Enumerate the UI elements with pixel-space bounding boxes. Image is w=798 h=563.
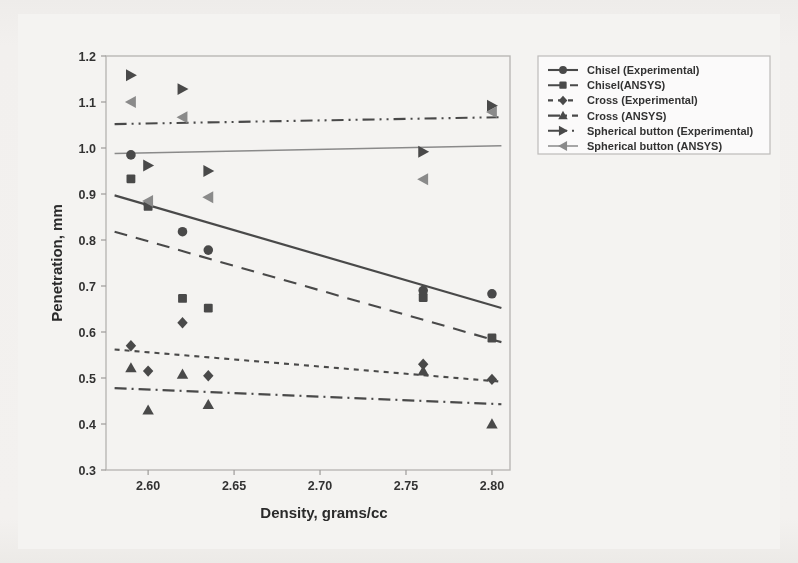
x-axis-tick-labels: 2.602.652.702.752.80 bbox=[136, 479, 504, 493]
legend-label-1: Chisel(ANSYS) bbox=[587, 79, 666, 91]
x-tick-label: 2.80 bbox=[480, 479, 504, 493]
data-point bbox=[142, 404, 153, 414]
legend-label-5: Spherical button (ANSYS) bbox=[587, 140, 722, 152]
x-tick-label: 2.60 bbox=[136, 479, 160, 493]
x-axis-title: Density, grams/cc bbox=[260, 504, 387, 521]
data-point bbox=[417, 173, 428, 185]
data-point bbox=[178, 83, 189, 95]
data-point bbox=[125, 362, 136, 372]
data-point bbox=[417, 365, 428, 375]
data-point bbox=[487, 374, 497, 385]
chart-figure: 2.602.652.702.752.80 0.30.40.50.60.70.80… bbox=[0, 0, 798, 563]
legend-marker-1 bbox=[559, 82, 566, 89]
data-point bbox=[204, 304, 213, 313]
y-tick-label: 1.0 bbox=[79, 142, 96, 156]
chart-legend: Chisel (Experimental)Chisel(ANSYS)Cross … bbox=[538, 56, 770, 154]
y-axis-tick-labels: 0.30.40.50.60.70.80.91.01.11.2 bbox=[79, 50, 96, 478]
data-point bbox=[204, 245, 214, 255]
data-point bbox=[203, 399, 214, 409]
data-point bbox=[202, 191, 213, 203]
y-tick-label: 1.2 bbox=[79, 50, 96, 64]
trend-line-3 bbox=[115, 388, 502, 404]
data-point bbox=[487, 289, 497, 299]
y-tick-label: 0.4 bbox=[79, 418, 96, 432]
data-point bbox=[125, 96, 136, 108]
data-point bbox=[126, 150, 136, 160]
legend-marker-0 bbox=[559, 66, 567, 74]
trend-line-2 bbox=[115, 349, 502, 381]
y-axis-title: Penetration, mm bbox=[48, 204, 65, 322]
x-tick-label: 2.75 bbox=[394, 479, 418, 493]
data-point bbox=[177, 369, 188, 379]
y-tick-label: 0.6 bbox=[79, 326, 96, 340]
series-1-markers bbox=[127, 174, 497, 342]
legend-label-4: Spherical button (Experimental) bbox=[587, 125, 754, 137]
y-tick-label: 0.3 bbox=[79, 464, 96, 478]
data-point bbox=[419, 293, 428, 302]
x-tick-label: 2.65 bbox=[222, 479, 246, 493]
data-point bbox=[127, 174, 136, 183]
legend-label-0: Chisel (Experimental) bbox=[587, 64, 700, 76]
data-point bbox=[486, 418, 497, 428]
trend-line-0 bbox=[115, 195, 502, 308]
legend-label-3: Cross (ANSYS) bbox=[587, 110, 667, 122]
penetration-vs-density-scatter-chart: 2.602.652.702.752.80 0.30.40.50.60.70.80… bbox=[0, 0, 798, 563]
data-point bbox=[203, 370, 213, 381]
trend-line-4 bbox=[115, 117, 502, 124]
data-point bbox=[177, 317, 187, 328]
y-tick-label: 1.1 bbox=[79, 96, 96, 110]
y-axis-ticks bbox=[101, 56, 106, 470]
trend-line-5 bbox=[115, 146, 502, 154]
y-tick-label: 0.7 bbox=[79, 280, 96, 294]
series-0-markers bbox=[126, 150, 497, 298]
data-point bbox=[143, 160, 154, 172]
data-point bbox=[177, 111, 188, 123]
data-point bbox=[143, 365, 153, 376]
legend-label-2: Cross (Experimental) bbox=[587, 94, 698, 106]
trend-lines-group bbox=[115, 117, 502, 404]
data-point bbox=[488, 334, 497, 343]
data-point bbox=[203, 165, 214, 177]
x-axis-ticks bbox=[148, 470, 492, 475]
data-point bbox=[178, 227, 188, 237]
x-tick-label: 2.70 bbox=[308, 479, 332, 493]
y-tick-label: 0.8 bbox=[79, 234, 96, 248]
data-point bbox=[178, 294, 187, 303]
data-point bbox=[126, 69, 137, 81]
y-tick-label: 0.5 bbox=[79, 372, 96, 386]
trend-line-1 bbox=[115, 232, 502, 342]
y-tick-label: 0.9 bbox=[79, 188, 96, 202]
